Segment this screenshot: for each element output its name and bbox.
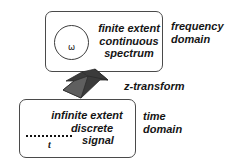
time-text-line-1: infinite extent	[44, 109, 130, 122]
frequency-domain-label-line-2: domain	[171, 33, 224, 46]
sample-dot	[54, 135, 56, 137]
sample-dot	[58, 135, 60, 137]
frequency-box-text: finite extent continuous spectrum	[96, 22, 162, 60]
t-axis-label: t	[48, 139, 51, 150]
sample-dot	[26, 135, 28, 137]
frequency-text-line-1: finite extent	[96, 22, 162, 35]
time-domain-label-line-1: time	[143, 110, 182, 123]
sample-dot	[46, 135, 48, 137]
sample-dot	[30, 135, 32, 137]
time-text-line-2: discrete	[44, 122, 130, 135]
z-transform-label: z-transform	[124, 80, 185, 92]
omega-symbol: ω	[55, 43, 88, 52]
frequency-domain-label-line-1: frequency	[171, 20, 224, 33]
sample-dot	[34, 135, 36, 137]
z-transform-arrow-icon	[62, 68, 110, 101]
diagram-canvas: ω finite extent continuous spectrum freq…	[0, 0, 233, 166]
sample-dot	[66, 135, 68, 137]
frequency-domain-box: ω finite extent continuous spectrum	[45, 11, 163, 72]
frequency-domain-label: frequency domain	[171, 20, 224, 45]
sample-dot	[50, 135, 52, 137]
time-domain-label-line-2: domain	[143, 123, 182, 136]
sample-dot	[42, 135, 44, 137]
sample-dot	[62, 135, 64, 137]
discrete-sample-axis: t	[26, 135, 74, 147]
omega-circle-icon: ω	[54, 25, 89, 60]
sample-dot	[70, 135, 72, 137]
time-domain-box: infinite extent discrete signal t	[19, 99, 136, 158]
time-domain-label: time domain	[143, 110, 182, 135]
frequency-text-line-3: spectrum	[96, 47, 162, 60]
sample-dots	[26, 135, 72, 138]
frequency-text-line-2: continuous	[96, 35, 162, 48]
sample-dot	[38, 135, 40, 137]
